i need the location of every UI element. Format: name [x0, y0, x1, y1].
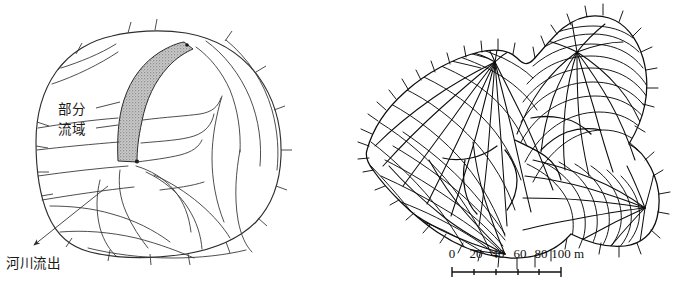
- scale-bar: 0 20 40 60 80 100 m: [449, 246, 584, 277]
- label-leader-lines: [96, 102, 120, 128]
- scale-tick-label-100: 100: [551, 246, 571, 261]
- scale-tick-label-40: 40: [492, 246, 505, 261]
- flow-net-mesh-panel: 0 20 40 60 80 100 m: [345, 0, 690, 285]
- partial-watershed-label-line1: 部分: [58, 101, 85, 117]
- river-outflow-label: 河川流出: [6, 255, 60, 271]
- schematic-watershed-panel: 部分 流域 河川流出: [0, 0, 345, 285]
- scale-tick-label-20: 20: [470, 246, 483, 261]
- partial-watershed-label-line2: 流域: [58, 121, 85, 137]
- partial-watershed-label: 部分 流域: [58, 101, 85, 137]
- right-diagram-svg: 0 20 40 60 80 100 m: [345, 0, 690, 285]
- figure-root: 部分 流域 河川流出: [0, 0, 690, 285]
- scale-unit-label: m: [574, 246, 584, 261]
- partial-watershed-shaded-band: [118, 42, 193, 164]
- cross-lines-left: [367, 40, 537, 274]
- river-outflow-indicator: 河川流出: [6, 186, 108, 271]
- scale-tick-label-80: 80: [535, 246, 548, 261]
- left-diagram-svg: 部分 流域 河川流出: [0, 0, 345, 285]
- scale-tick-label-60: 60: [514, 246, 527, 261]
- scale-tick-label-0: 0: [449, 246, 456, 261]
